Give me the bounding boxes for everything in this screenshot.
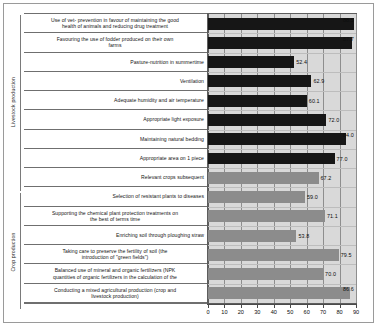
bar-value-label: 84.0 <box>343 132 354 138</box>
gridline-y <box>208 72 356 73</box>
group-axis-line-livestock <box>20 15 21 191</box>
category-label-text: Ventilation <box>180 78 204 84</box>
x-axis-tick <box>241 305 242 308</box>
x-axis-tick-label: 0 <box>201 309 215 315</box>
x-axis-tick <box>208 305 209 308</box>
bar <box>208 18 354 30</box>
category-label-text: Adequate humidity and air temperature <box>114 97 204 103</box>
category-label: Balanced use of mineral and organic fert… <box>24 263 207 282</box>
category-label: Taking care to preserve the fertility of… <box>24 244 207 263</box>
horizontal-bar-chart: Livestock production Crop production Use… <box>5 5 373 322</box>
bar-value-label: 87.7 <box>343 36 354 42</box>
gridline-y <box>208 207 356 208</box>
x-axis-tick-labels: 0102030405060708090 <box>201 309 365 319</box>
x-axis-tick-label: 40 <box>267 309 281 315</box>
x-axis-tick <box>224 305 225 308</box>
category-label: Use of vet- prevention in favour of main… <box>24 13 207 32</box>
category-label-text: Supporting the chemical plant protection… <box>26 210 204 222</box>
x-axis-tick <box>340 305 341 308</box>
category-label: Ventilation <box>24 71 207 90</box>
x-axis-tick-label: 10 <box>217 309 231 315</box>
bar <box>208 56 294 68</box>
category-label-column: Use of vet- prevention in favour of main… <box>24 13 207 311</box>
gridline-y <box>208 168 356 169</box>
group-axis-crop: Crop production <box>5 193 21 311</box>
category-label: Selection of resistant plants to disease… <box>24 186 207 205</box>
bar <box>208 287 350 299</box>
x-axis-tick-label: 30 <box>250 309 264 315</box>
category-label: Enriching soil through ploughing straw <box>24 225 207 244</box>
category-label: Appropriate light exposure <box>24 109 207 128</box>
bar-value-label: 71.1 <box>327 213 338 219</box>
x-axis-tick <box>307 305 308 308</box>
bar-value-label: 52.4 <box>296 59 307 65</box>
bar-value-label: 72.0 <box>328 117 339 123</box>
gridline-y <box>208 264 356 265</box>
bar <box>208 153 335 165</box>
x-axis-tick <box>257 305 258 308</box>
bar <box>208 249 339 261</box>
category-label-text: Conducting a mixed agricultural producti… <box>26 287 204 299</box>
x-axis-tick-label: 60 <box>300 309 314 315</box>
category-label-text: Favouring the use of fodder produced on … <box>26 36 204 48</box>
category-label: Conducting a mixed agricultural producti… <box>24 283 207 302</box>
category-label: Favouring the use of fodder produced on … <box>24 32 207 51</box>
gridline-y <box>208 226 356 227</box>
category-label-text: Maintaining natural bedding <box>140 136 204 142</box>
bar <box>208 191 305 203</box>
bar-value-label: 53.8 <box>298 233 309 239</box>
category-label-text: Enriching soil through ploughing straw <box>116 232 204 238</box>
bar <box>208 75 311 87</box>
bar <box>208 114 326 126</box>
bar-value-label: 77.0 <box>337 156 348 162</box>
bar-value-label: 62.9 <box>313 78 324 84</box>
category-label-text: Selection of resistant plants to disease… <box>112 193 204 199</box>
x-axis-tick <box>274 305 275 308</box>
x-axis <box>207 304 357 308</box>
bar <box>208 37 352 49</box>
bar <box>208 268 323 280</box>
x-axis-tick-label: 80 <box>333 309 347 315</box>
x-axis-tick <box>290 305 291 308</box>
category-label: Pasture-nutrition in summertime <box>24 52 207 71</box>
category-label-text: Appropriate area on 1 piece <box>140 155 204 161</box>
gridline-y <box>208 110 356 111</box>
category-label: Supporting the chemical plant protection… <box>24 206 207 225</box>
group-axis-crop-label: Crop production <box>10 232 16 271</box>
bar-value-label: 86.6 <box>343 286 354 292</box>
bar-value-label: 79.5 <box>341 252 352 258</box>
x-axis-tick-label: 20 <box>234 309 248 315</box>
bar-value-label: 70.0 <box>325 271 336 277</box>
category-label-text: Balanced use of mineral and organic fert… <box>26 267 204 279</box>
x-axis-tick <box>323 305 324 308</box>
category-label-text: Relevant crops subsequent <box>141 174 204 180</box>
gridline-y <box>208 53 356 54</box>
group-axis-livestock: Livestock production <box>5 13 21 191</box>
gridline-y <box>208 245 356 246</box>
bar <box>208 172 319 184</box>
category-label-text: Appropriate light exposure <box>143 116 204 122</box>
bar <box>208 133 346 145</box>
x-axis-tick-label: 90 <box>349 309 363 315</box>
group-axis-livestock-label: Livestock production <box>10 77 16 127</box>
category-label: Appropriate area on 1 piece <box>24 148 207 167</box>
gridline-y <box>208 284 356 285</box>
bar <box>208 210 325 222</box>
category-label: Adequate humidity and air temperature <box>24 90 207 109</box>
x-axis-tick-label: 50 <box>283 309 297 315</box>
gridline-y <box>208 149 356 150</box>
bar <box>208 95 307 107</box>
gridline-x <box>356 14 357 303</box>
category-label-text: Use of vet- prevention in favour of main… <box>26 17 204 29</box>
bar-value-label: 60.1 <box>309 98 320 104</box>
category-label-text: Pasture-nutrition in summertime <box>130 59 204 65</box>
category-label-text: Taking care to preserve the fertility of… <box>26 248 204 260</box>
category-label: Relevant crops subsequent <box>24 167 207 186</box>
x-axis-tick-label: 70 <box>316 309 330 315</box>
plot-area: 88.587.752.462.960.172.084.077.067.259.0… <box>207 13 357 304</box>
bar <box>208 230 296 242</box>
gridline-y <box>208 91 356 92</box>
x-axis-tick <box>356 305 357 308</box>
bar-value-label: 59.0 <box>307 194 318 200</box>
gridline-y <box>208 33 356 34</box>
